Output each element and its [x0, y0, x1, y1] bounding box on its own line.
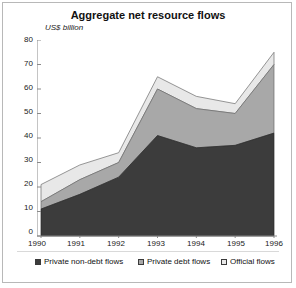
- y-tick-70: 70: [17, 60, 33, 68]
- legend-label-private-non-debt-flows: Private non-debt flows: [44, 257, 123, 266]
- y-axis-ticks: 80 70 60 50 40 30 20 10 0: [15, 36, 33, 236]
- x-tick-1996: 1996: [265, 239, 283, 248]
- y-tick-0: 0: [17, 228, 33, 236]
- y-tick-20: 20: [17, 180, 33, 188]
- legend-label-private-debt-flows: Private debt flows: [147, 257, 210, 266]
- x-tick-1995: 1995: [227, 239, 245, 248]
- y-axis-label: US$ billion: [45, 23, 83, 32]
- y-tick-30: 30: [17, 156, 33, 164]
- legend-item-private-non-debt-flows[interactable]: Private non-debt flows: [35, 257, 123, 266]
- y-tick-50: 50: [17, 108, 33, 116]
- legend-item-private-debt-flows[interactable]: Private debt flows: [138, 257, 210, 266]
- y-tick-60: 60: [17, 84, 33, 92]
- y-tick-10: 10: [17, 204, 33, 212]
- x-tick-1992: 1992: [107, 239, 125, 248]
- chart-plot-area: [37, 40, 277, 235]
- x-tick-1991: 1991: [67, 239, 85, 248]
- x-tick-1994: 1994: [187, 239, 205, 248]
- chart-legend: Private non-debt flows Private debt flow…: [3, 257, 293, 273]
- legend-item-official-flows[interactable]: Official flows: [221, 257, 275, 266]
- legend-swatch-private-non-debt-flows: [35, 259, 41, 265]
- legend-label-official-flows: Official flows: [230, 257, 275, 266]
- legend-swatch-official-flows: [221, 259, 227, 265]
- y-tick-40: 40: [17, 132, 33, 140]
- legend-swatch-private-debt-flows: [138, 259, 144, 265]
- chart-frame: Aggregate net resource flows US$ billion…: [2, 2, 292, 283]
- stacked-area-svg: [37, 40, 277, 238]
- y-tick-80: 80: [17, 36, 33, 44]
- page-title: Aggregate net resource flows: [3, 9, 293, 21]
- x-tick-1993: 1993: [147, 239, 165, 248]
- legend-divider: [17, 251, 279, 252]
- x-tick-1990: 1990: [28, 239, 46, 248]
